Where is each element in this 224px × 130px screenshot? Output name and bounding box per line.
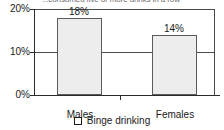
y-axis-label-0: 0% — [0, 90, 30, 100]
chart-legend: Binge drinking — [0, 115, 224, 126]
legend-swatch-icon — [74, 117, 82, 125]
x-axis-tick-center — [120, 95, 121, 100]
y-axis-tick-20 — [30, 9, 35, 10]
legend-label-binge-drinking: Binge drinking — [87, 115, 150, 126]
bar-value-females: 14% — [151, 23, 197, 34]
plot-area: 18% 14% Males Females — [34, 9, 215, 95]
chart-title-text: ...consumed five or more drinks in a row — [42, 0, 214, 3]
y-axis-label-20: 20% — [0, 4, 30, 14]
plot-right-border — [214, 9, 215, 95]
bar-females[interactable] — [152, 35, 197, 95]
y-axis-label-10: 10% — [0, 47, 30, 57]
bar-males[interactable] — [57, 18, 102, 95]
y-axis-labels: 20% 10% 0% — [0, 9, 30, 95]
bar-chart-figure: ...consumed five or more drinks in a row… — [0, 0, 224, 130]
bar-value-males: 18% — [56, 6, 102, 17]
chart-title-cropped: ...consumed five or more drinks in a row — [42, 0, 214, 3]
y-axis-tick-0 — [30, 95, 35, 96]
y-axis-tick-10 — [30, 52, 35, 53]
x-axis-line — [30, 95, 220, 96]
